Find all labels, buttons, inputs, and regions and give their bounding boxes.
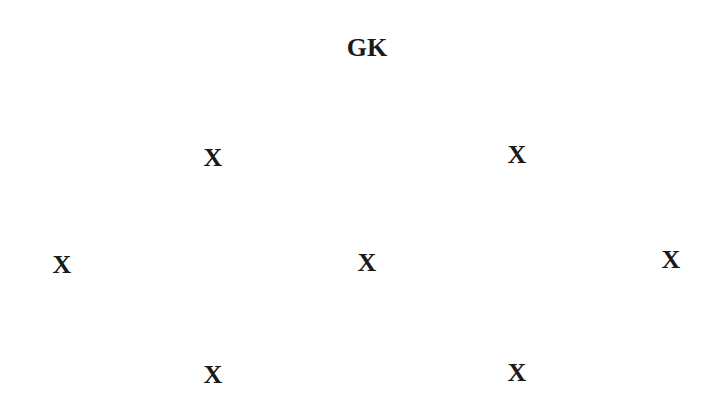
player-marker: X xyxy=(508,360,527,386)
goalkeeper-label: GK xyxy=(347,35,387,61)
player-marker: X xyxy=(53,252,72,278)
player-marker: X xyxy=(662,247,681,273)
player-marker: X xyxy=(508,142,527,168)
player-marker: X xyxy=(358,250,377,276)
player-marker: X xyxy=(204,145,223,171)
player-marker: X xyxy=(204,362,223,388)
